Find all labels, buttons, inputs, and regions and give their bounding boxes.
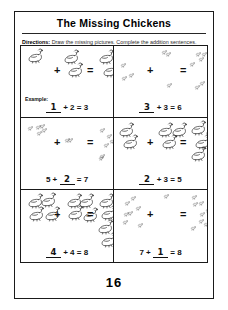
equation-plus: + xyxy=(154,175,163,184)
chick-icon xyxy=(120,62,127,69)
chick-icon xyxy=(98,155,105,162)
chick-icon xyxy=(124,200,131,207)
equals-symbol: = xyxy=(180,136,186,148)
bird-group xyxy=(156,192,182,238)
problem-cell: +=4 + 4 = 8 xyxy=(21,190,114,262)
problem-illustration: += xyxy=(114,192,207,240)
equation: 7 + 1 = 8 xyxy=(114,247,207,258)
equation-equals: = xyxy=(75,248,84,257)
chick-icon xyxy=(190,225,197,232)
chick-icon xyxy=(199,80,206,87)
chick-icon xyxy=(192,201,199,208)
equation-equals: = xyxy=(168,175,177,184)
plus-symbol: + xyxy=(54,64,60,76)
chick-icon xyxy=(165,51,172,58)
chick-icon xyxy=(163,193,170,200)
chicken-icon xyxy=(67,62,84,77)
equation: 4 + 4 = 8 xyxy=(21,247,113,258)
chick-icon xyxy=(130,195,137,202)
equation: 1 + 2 = 3 xyxy=(21,102,113,113)
chicken-icon xyxy=(102,62,114,77)
equation: 5 + 2 = 7 xyxy=(21,174,113,185)
page-number: 16 xyxy=(15,275,213,290)
equation-sum: 6 xyxy=(177,103,181,112)
problem-illustration: += xyxy=(21,192,113,240)
bird-group xyxy=(63,120,89,166)
chick-icon xyxy=(137,222,144,229)
bird-group xyxy=(118,192,146,238)
plus-symbol: + xyxy=(54,136,60,148)
problem-cell: +=5 + 2 = 7 xyxy=(21,118,114,190)
equals-symbol: = xyxy=(87,64,93,76)
problem-cell: +=3 + 3 = 6 xyxy=(114,46,207,118)
answer-blank[interactable]: 4 xyxy=(46,247,61,258)
plus-symbol: + xyxy=(54,208,60,220)
chick-icon xyxy=(121,75,128,82)
equation-plus: + xyxy=(61,248,70,257)
problem-grid: +=Example:1 + 2 = 3+=3 + 3 = 6+=5 + 2 = … xyxy=(20,45,208,263)
equation-sum: 7 xyxy=(84,175,88,184)
equals-symbol: = xyxy=(87,136,93,148)
chicken-icon xyxy=(122,134,139,149)
equation-plus: + xyxy=(144,248,153,257)
equation-equals: = xyxy=(75,103,84,112)
chick-icon xyxy=(99,127,106,134)
chick-icon xyxy=(122,219,129,226)
answer-blank[interactable]: 1 xyxy=(153,247,168,258)
equation-sum: 8 xyxy=(84,248,88,257)
problem-cell: +=7 + 1 = 8 xyxy=(114,190,207,262)
answer-blank[interactable]: 2 xyxy=(60,174,75,185)
bird-group xyxy=(156,48,182,94)
bird-group xyxy=(25,48,53,94)
chick-icon xyxy=(67,137,74,144)
equation-equals: = xyxy=(168,103,177,112)
equals-symbol: = xyxy=(180,64,186,76)
chick-icon xyxy=(135,205,142,212)
chicken-icon xyxy=(27,48,44,63)
answer-blank[interactable]: 1 xyxy=(46,102,61,113)
equation-equals: = xyxy=(168,248,177,257)
plus-symbol: + xyxy=(147,64,153,76)
page-title: The Missing Chickens xyxy=(15,17,213,29)
bird-group xyxy=(156,120,182,166)
chick-icon xyxy=(203,221,207,228)
title-divider xyxy=(22,33,206,34)
bird-group xyxy=(96,48,114,94)
equation: 3 + 3 = 6 xyxy=(114,102,207,113)
chick-icon xyxy=(103,142,110,149)
answer-blank[interactable]: 3 xyxy=(139,102,154,113)
bird-group xyxy=(96,120,114,166)
bird-group xyxy=(63,192,89,238)
chicken-icon xyxy=(40,192,57,207)
equals-symbol: = xyxy=(180,208,186,220)
chick-icon xyxy=(205,207,207,214)
equation-plus: + xyxy=(154,103,163,112)
plus-symbol: + xyxy=(147,208,153,220)
equation-plus: + xyxy=(61,103,70,112)
problem-cell: +=Example:1 + 2 = 3 xyxy=(21,46,114,118)
equation-sum: 3 xyxy=(84,103,88,112)
chick-icon xyxy=(27,125,34,132)
chick-icon xyxy=(128,72,135,79)
chick-icon xyxy=(123,211,130,218)
chicken-icon xyxy=(100,205,114,220)
bird-group xyxy=(118,48,146,94)
chicken-icon xyxy=(190,146,207,161)
bird-group xyxy=(189,48,207,94)
bird-group xyxy=(25,192,53,238)
problem-illustration: += xyxy=(21,48,113,96)
bird-group xyxy=(118,120,146,166)
problem-illustration: += xyxy=(114,120,207,168)
equation: 2 + 3 = 5 xyxy=(114,174,207,185)
bird-group xyxy=(96,192,114,238)
chicken-icon xyxy=(28,206,45,221)
chicken-icon xyxy=(161,134,178,149)
bird-group xyxy=(63,48,89,94)
chick-icon xyxy=(189,61,196,68)
bird-group xyxy=(189,192,207,238)
answer-blank[interactable]: 2 xyxy=(139,174,154,185)
chick-icon xyxy=(195,51,202,58)
worksheet-page: The Missing Chickens Directions: Draw th… xyxy=(14,11,214,299)
problem-illustration: += xyxy=(114,48,207,96)
chick-icon xyxy=(41,127,48,134)
